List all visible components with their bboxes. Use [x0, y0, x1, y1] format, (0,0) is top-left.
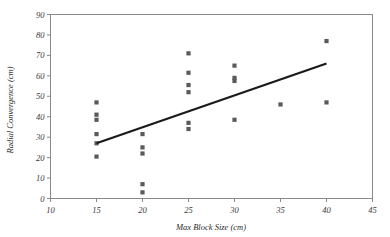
data-point	[232, 64, 236, 68]
data-point	[186, 121, 190, 125]
data-point	[94, 132, 98, 136]
x-tick-label: 45	[368, 205, 377, 215]
data-point	[186, 51, 190, 55]
x-axis-title: Max Block Size (cm)	[175, 222, 246, 232]
chart-canvas: 0102030405060708090 1015202530354045 Max…	[0, 0, 390, 237]
data-point	[140, 190, 144, 194]
x-tick-label: 10	[46, 205, 55, 215]
x-tick-label: 25	[184, 205, 193, 215]
data-point	[94, 154, 98, 158]
data-point	[324, 39, 328, 43]
x-tick-label: 15	[92, 205, 101, 215]
y-tick-label: 20	[36, 153, 45, 163]
data-point	[186, 90, 190, 94]
data-point	[140, 182, 144, 186]
y-axis-title: Radial Convergence (cm)	[5, 66, 15, 154]
y-tick-label: 80	[36, 30, 45, 40]
y-tick-label: 90	[36, 10, 45, 20]
data-point	[140, 132, 144, 136]
y-tick-label: 40	[36, 112, 45, 122]
y-tick-label: 30	[35, 132, 45, 142]
data-point	[186, 83, 190, 87]
data-point	[140, 151, 144, 155]
scatter-chart: 0102030405060708090 1015202530354045 Max…	[0, 0, 390, 237]
data-point	[94, 113, 98, 117]
x-tick-label: 35	[275, 205, 285, 215]
data-point	[186, 71, 190, 75]
data-point	[278, 102, 282, 106]
x-tick-label: 30	[229, 205, 239, 215]
chart-background	[0, 0, 390, 237]
data-point	[94, 100, 98, 104]
data-point	[232, 118, 236, 122]
data-point	[232, 79, 236, 83]
data-point	[324, 100, 328, 104]
data-point	[186, 127, 190, 131]
x-tick-label: 40	[322, 205, 331, 215]
data-point	[140, 145, 144, 149]
x-tick-label: 20	[138, 205, 147, 215]
y-tick-label: 10	[36, 173, 45, 183]
data-point	[94, 118, 98, 122]
y-tick-label: 60	[36, 71, 45, 81]
y-tick-label: 70	[36, 50, 45, 60]
y-tick-label: 50	[36, 91, 45, 101]
